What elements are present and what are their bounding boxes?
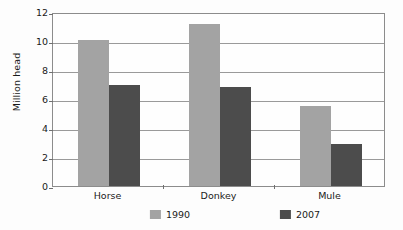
y-axis-tick-label: 12	[14, 8, 48, 18]
x-axis-category-label: Mule	[318, 189, 341, 202]
bar	[220, 87, 251, 186]
y-axis-tick-mark	[49, 130, 53, 131]
y-axis-tick-label: 4	[14, 124, 48, 134]
y-axis-tick-labels: 024681012	[8, 13, 48, 187]
chart-legend: 19902007	[52, 209, 385, 225]
y-axis-tick-mark	[49, 159, 53, 160]
y-axis-tick-mark	[49, 72, 53, 73]
bar	[189, 24, 220, 186]
y-axis-tick-label: 0	[14, 182, 48, 192]
y-axis-tick-label: 8	[14, 66, 48, 76]
bar	[78, 40, 109, 186]
bar-chart: Million head 024681012 HorseDonkeyMule 1…	[0, 0, 403, 230]
x-axis-category-labels: HorseDonkeyMule	[52, 189, 385, 205]
bar	[109, 85, 140, 187]
legend-swatch-icon	[150, 210, 161, 219]
y-axis-tick-mark	[49, 43, 53, 44]
y-axis-tick-label: 6	[14, 95, 48, 105]
x-axis-category-label: Donkey	[201, 189, 237, 202]
legend-swatch-icon	[280, 210, 291, 219]
legend-item: 2007	[280, 209, 320, 220]
x-axis-tick-mark	[163, 185, 164, 189]
x-axis-category-label: Horse	[94, 189, 122, 202]
y-axis-tick-label: 10	[14, 37, 48, 47]
y-axis-tick-mark	[49, 14, 53, 15]
legend-label: 1990	[166, 209, 190, 220]
y-axis-tick-label: 2	[14, 153, 48, 163]
x-axis-tick-mark	[274, 185, 275, 189]
bar	[300, 106, 331, 186]
y-axis-tick-mark	[49, 101, 53, 102]
plot-area	[52, 13, 385, 187]
bar	[331, 144, 362, 186]
legend-item: 1990	[150, 209, 190, 220]
legend-label: 2007	[296, 209, 320, 220]
